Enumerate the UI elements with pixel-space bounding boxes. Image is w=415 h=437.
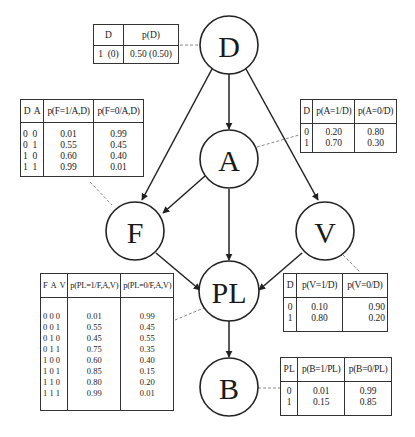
cpt-table-A: D p(A=1/D) p(A=0/D) 00.200.80 10.700.30 xyxy=(300,99,397,153)
table-row: 0 1 10.750.35 xyxy=(41,344,174,355)
node-PL-label: PL xyxy=(211,276,246,309)
table-row: 00.010.99 xyxy=(281,386,392,397)
header-pV1: p(V=1/D) xyxy=(297,274,342,298)
header-pB1: p(B=1/PL) xyxy=(298,358,345,382)
table-row: 1 0 10.850.15 xyxy=(41,366,174,377)
leader-F xyxy=(90,182,112,205)
header-pV0: p(V=0/D) xyxy=(342,274,387,298)
table-row: 10.150.85 xyxy=(281,397,392,408)
table-row: 00.100.90 xyxy=(284,302,388,313)
leader-PL xyxy=(175,308,204,320)
cell-key: 1 (0) xyxy=(94,46,124,64)
node-V-label: V xyxy=(314,216,336,249)
table-row: 00.200.80 xyxy=(301,127,397,138)
table-row: 1 0 00.600.40 xyxy=(41,355,174,366)
edge-D-F xyxy=(142,69,212,200)
node-A-label: A xyxy=(218,144,240,177)
header-pF0: p(F=0/A,D) xyxy=(94,100,144,123)
header-pB0: p(B=0/PL) xyxy=(345,358,392,382)
node-D-label: D xyxy=(218,30,240,63)
cell-prob: 0.50 (0.50) xyxy=(123,46,178,64)
table-row: 1 00.600.40 xyxy=(21,151,144,162)
leader-A xyxy=(257,135,299,147)
table-row: 1 1 00.800.20 xyxy=(41,377,174,388)
table-row: 0 0 10.550.45 xyxy=(41,322,174,333)
node-B-label: B xyxy=(219,372,239,405)
table-row: 1 1 10.990.01 xyxy=(41,388,174,399)
cpt-table-V: D p(V=1/D) p(V=0/D) 00.100.90 10.800.20 xyxy=(283,273,388,332)
header-D: D xyxy=(94,25,124,46)
header-DA: D A xyxy=(21,100,44,123)
cpt-table-PL: F A V p(PL=1/F,A,V) p(PL=0/F,A,V) 0 0 00… xyxy=(40,273,174,411)
header-pPL1: p(PL=1/F,A,V) xyxy=(68,274,121,298)
table-row: 10.800.20 xyxy=(284,313,388,324)
header-pPL0: p(PL=0/F,A,V) xyxy=(121,274,174,298)
bayesian-network-diagram: D A F V PL B D p(D) 1 (0) 0.50 (0.50) D … xyxy=(0,0,415,437)
edge-A-F xyxy=(163,176,205,213)
table-row: 0 10.550.45 xyxy=(21,140,144,151)
table-row: 10.700.30 xyxy=(301,138,397,149)
cpt-table-D: D p(D) 1 (0) 0.50 (0.50) xyxy=(93,24,179,64)
header-D: D xyxy=(284,274,297,298)
leader-V xyxy=(343,255,360,272)
header-pD: p(D) xyxy=(123,25,178,46)
header-FAV: F A V xyxy=(41,274,68,298)
header-D: D xyxy=(301,100,313,124)
header-pA1: p(A=1/D) xyxy=(313,100,355,124)
cpt-table-B: PL p(B=1/PL) p(B=0/PL) 00.010.99 10.150.… xyxy=(280,357,392,416)
table-row: 0 1 00.450.55 xyxy=(41,333,174,344)
node-F-label: F xyxy=(127,216,144,249)
header-PL: PL xyxy=(281,358,298,382)
header-pF1: p(F=1/A,D) xyxy=(44,100,94,123)
table-row: 0 0 00.010.99 xyxy=(41,311,174,322)
header-pA0: p(A=0/D) xyxy=(355,100,397,124)
table-row: 0 00.010.99 xyxy=(21,129,144,140)
cpt-table-F: D A p(F=1/A,D) p(F=0/A,D) 0 00.010.99 0 … xyxy=(20,99,144,177)
table-row: 1 10.990.01 xyxy=(21,162,144,173)
